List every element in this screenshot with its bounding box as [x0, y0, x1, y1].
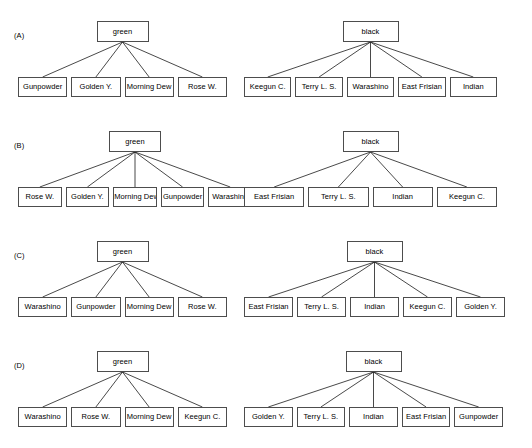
- leaf-node: Indian: [349, 407, 398, 427]
- root-node: black: [347, 241, 403, 262]
- root-node: green: [97, 351, 149, 372]
- tree-edge: [374, 372, 427, 407]
- leaf-node: East Frisian: [244, 187, 304, 207]
- leaf-node: Morning Dew: [125, 77, 174, 97]
- root-node: green: [97, 21, 149, 42]
- leaf-node: Warashino: [18, 297, 67, 317]
- leaf-node: Golden Y.: [71, 77, 120, 97]
- tree-edge: [371, 152, 467, 187]
- tree-black: East FrisianTerry L. S.IndianKeegun C.bl…: [244, 124, 497, 236]
- tree-edge: [123, 372, 150, 407]
- tree-edge: [322, 262, 375, 297]
- tree-edge: [135, 152, 183, 187]
- root-node: black: [346, 351, 402, 372]
- leaf-node: Terry L. S.: [308, 187, 368, 207]
- leaf-node: Gunpowder: [161, 187, 205, 207]
- tree-edge: [268, 372, 373, 407]
- leaf-node: Terry L. S.: [297, 297, 346, 317]
- leaf-node: Indian: [373, 187, 433, 207]
- tree-edge: [43, 262, 123, 297]
- tree-edge: [123, 262, 203, 297]
- tree-black: Keegun C.Terry L. S.WarashinoEast Frisia…: [244, 14, 497, 126]
- tree-edge: [371, 42, 422, 77]
- leaf-node: Keegun C.: [244, 77, 291, 97]
- tree-edge: [135, 152, 230, 187]
- tree-edge: [96, 262, 123, 297]
- tree-edge: [43, 42, 123, 77]
- leaf-node: Morning Dew: [125, 407, 174, 427]
- tree-black: East FrisianTerry L. S.IndianKeegun C.Go…: [244, 234, 505, 346]
- tree-green: WarashinoGunpowderMorning DewRose W.gree…: [18, 234, 227, 346]
- leaf-node: Rose W.: [71, 407, 120, 427]
- tree-edge: [338, 152, 370, 187]
- panel-c: (C)WarashinoGunpowderMorning DewRose W.g…: [0, 234, 532, 346]
- leaf-node: Keegun C.: [437, 187, 497, 207]
- leaf-node: Indian: [350, 297, 399, 317]
- root-node: green: [97, 241, 149, 262]
- leaf-node: Warashino: [347, 77, 394, 97]
- tree-edge: [87, 152, 135, 187]
- leaf-node: Morning Dew: [125, 297, 174, 317]
- tree-edge: [375, 262, 428, 297]
- tree-edge: [319, 42, 370, 77]
- leaf-node: Indian: [450, 77, 497, 97]
- tree-edge: [274, 152, 370, 187]
- panel-a: (A)GunpowderGolden Y.Morning DewRose W.g…: [0, 14, 532, 126]
- leaf-node: Rose W.: [178, 77, 227, 97]
- tree-edge: [96, 42, 123, 77]
- panel-d: (D)WarashinoRose W.Morning DewKeegun C.g…: [0, 344, 532, 448]
- leaf-node: Keegun C.: [403, 297, 452, 317]
- leaf-node: Rose W.: [178, 297, 227, 317]
- tree-edge: [371, 42, 474, 77]
- leaf-node: Terry L. S.: [297, 407, 346, 427]
- leaf-node: Rose W.: [18, 187, 62, 207]
- leaf-node: Gunpowder: [71, 297, 120, 317]
- leaf-node: Gunpowder: [18, 77, 67, 97]
- tree-edge: [268, 42, 371, 77]
- leaf-node: Golden Y.: [456, 297, 505, 317]
- tree-edge: [123, 372, 203, 407]
- root-node: black: [343, 21, 399, 42]
- tree-edge: [96, 372, 123, 407]
- tree-edge: [123, 262, 150, 297]
- tree-edge: [40, 152, 135, 187]
- tree-green: Rose W.Golden Y.Morning DewGunpowderWara…: [18, 124, 252, 236]
- tree-edge: [321, 372, 374, 407]
- leaf-node: East Frisian: [402, 407, 451, 427]
- leaf-node: Morning Dew: [113, 187, 157, 207]
- tree-green: WarashinoRose W.Morning DewKeegun C.gree…: [18, 344, 227, 448]
- root-node: black: [343, 131, 399, 152]
- tree-edge: [269, 262, 375, 297]
- leaf-node: Warashino: [18, 407, 67, 427]
- leaf-node: East Frisian: [244, 297, 293, 317]
- tree-edge: [123, 42, 203, 77]
- leaf-node: Keegun C.: [178, 407, 227, 427]
- leaf-node: East Frisian: [398, 77, 445, 97]
- tree-edge: [375, 262, 481, 297]
- tree-green: GunpowderGolden Y.Morning DewRose W.gree…: [18, 14, 227, 126]
- leaf-node: Golden Y.: [66, 187, 110, 207]
- tree-diagram-figure: (A)GunpowderGolden Y.Morning DewRose W.g…: [0, 0, 532, 448]
- tree-black: Golden Y.Terry L. S.IndianEast FrisianGu…: [244, 344, 503, 448]
- tree-edge: [43, 372, 123, 407]
- tree-edge: [123, 42, 150, 77]
- leaf-node: Golden Y.: [244, 407, 293, 427]
- leaf-node: Gunpowder: [454, 407, 503, 427]
- tree-edge: [374, 372, 479, 407]
- root-node: green: [109, 131, 161, 152]
- leaf-node: Terry L. S.: [295, 77, 342, 97]
- tree-edge: [371, 152, 403, 187]
- panel-b: (B)Rose W.Golden Y.Morning DewGunpowderW…: [0, 124, 532, 236]
